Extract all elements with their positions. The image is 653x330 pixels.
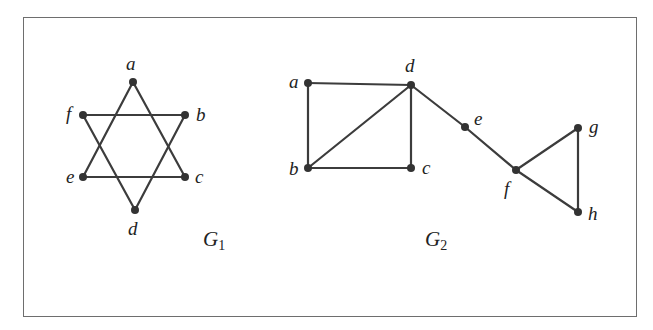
- g1-node-f: [79, 111, 87, 119]
- graph-g2: adbcefghG2: [289, 55, 599, 253]
- g2-node-h: [574, 208, 582, 216]
- g1-node-label-a: a: [126, 53, 136, 74]
- g2-node-label-a: a: [289, 71, 299, 92]
- g2-node-e: [461, 123, 469, 131]
- g2-node-label-b: b: [289, 158, 299, 179]
- g1-node-c: [181, 173, 189, 181]
- g1-node-label-d: d: [128, 218, 138, 239]
- g2-node-label-g: g: [589, 116, 599, 137]
- g2-edge-b-d: [308, 85, 411, 168]
- g2-edge-e-f: [465, 127, 516, 170]
- g1-node-e: [79, 173, 87, 181]
- g2-graph-label: G2: [425, 227, 447, 253]
- graph-g1: afbecdG1: [66, 53, 225, 253]
- g1-graph-label: G1: [203, 227, 225, 253]
- graph-canvas: afbecdG1 adbcefghG2: [0, 0, 653, 330]
- g2-node-c: [407, 164, 415, 172]
- g2-edge-f-h: [516, 170, 578, 212]
- g1-node-label-e: e: [66, 166, 74, 187]
- g1-node-a: [129, 78, 137, 86]
- g2-node-b: [304, 164, 312, 172]
- g1-node-label-b: b: [196, 104, 206, 125]
- g2-node-label-h: h: [588, 203, 598, 224]
- g2-edge-a-d: [308, 83, 411, 85]
- g2-node-a: [304, 79, 312, 87]
- g1-node-b: [181, 111, 189, 119]
- g1-node-d: [131, 206, 139, 214]
- g2-node-g: [574, 124, 582, 132]
- g2-edge-f-g: [516, 128, 578, 170]
- g2-node-f: [512, 166, 520, 174]
- g1-node-label-c: c: [195, 166, 204, 187]
- g2-node-d: [407, 81, 415, 89]
- g2-edge-d-e: [411, 85, 465, 127]
- g2-node-label-c: c: [422, 157, 431, 178]
- g2-node-label-f: f: [504, 178, 512, 199]
- g2-node-label-d: d: [405, 55, 415, 76]
- g2-node-label-e: e: [474, 108, 482, 129]
- g1-node-label-f: f: [66, 103, 74, 124]
